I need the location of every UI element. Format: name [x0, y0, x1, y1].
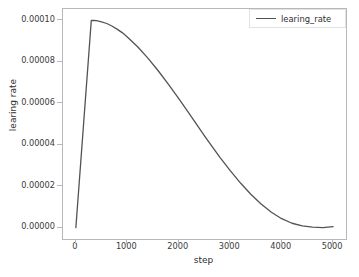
y-axis-label: learing rate	[8, 68, 18, 143]
y-tick-label: 0.00010	[0, 14, 55, 24]
x-axis-label: step	[62, 255, 345, 265]
line-series-svg	[63, 9, 346, 239]
plot-area	[62, 8, 347, 240]
y-tick-label: 0.00008	[0, 55, 55, 65]
legend-line-swatch	[256, 18, 276, 19]
chart-legend: learing_rate	[249, 9, 346, 28]
y-tick-label: 0.00000	[0, 221, 55, 231]
series-line-learing-rate	[76, 20, 333, 227]
chart-figure: 0.000000.000020.000040.000060.000080.000…	[0, 0, 359, 277]
legend-label-learing-rate: learing_rate	[281, 14, 331, 24]
y-tick-label: 0.00002	[0, 180, 55, 190]
